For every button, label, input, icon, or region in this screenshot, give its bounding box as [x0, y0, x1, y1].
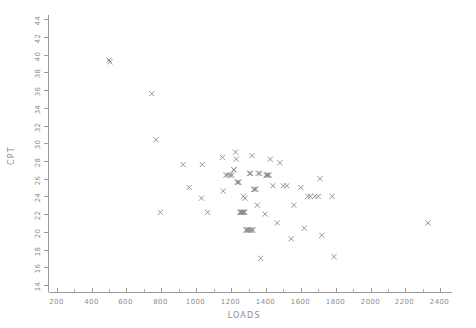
scatter-point [331, 254, 336, 259]
y-tick-label-14: 14 [34, 282, 42, 292]
scatter-point [242, 196, 247, 201]
scatter-plot-figure: 2004006008001000120014001600180020002200… [0, 0, 476, 328]
y-tick-label-20: 20 [34, 229, 42, 239]
x-tick-label-1400: 1400 [256, 298, 275, 306]
x-tick-label-2200: 2200 [395, 298, 414, 306]
y-tick-label-34: 34 [34, 105, 42, 115]
scatter-point [187, 185, 192, 190]
scatter-point [221, 188, 226, 193]
scatter-point [233, 150, 238, 155]
x-axis-title: LOADS [228, 311, 261, 320]
scatter-point [284, 183, 289, 188]
x-tick-label-800: 800 [153, 298, 168, 306]
scatter-point [158, 210, 163, 215]
scatter-point [205, 210, 210, 215]
scatter-point [319, 233, 324, 238]
y-tick-label-28: 28 [34, 158, 42, 168]
scatter-point [330, 194, 335, 199]
x-tick-label-2400: 2400 [430, 298, 449, 306]
x-tick-label-1600: 1600 [291, 298, 310, 306]
y-tick-label-30: 30 [34, 140, 42, 150]
y-tick-label-18: 18 [34, 247, 42, 257]
y-tick-label-16: 16 [34, 264, 42, 274]
scatter-point [232, 167, 237, 172]
scatter-point [199, 196, 204, 201]
scatter-point [426, 220, 431, 225]
y-tick-label-22: 22 [34, 211, 42, 221]
scatter-point [235, 180, 240, 185]
y-axis-title: CPT [7, 146, 16, 165]
x-tick-label-600: 600 [118, 298, 133, 306]
scatter-point [275, 220, 280, 225]
y-tick-label-42: 42 [34, 34, 42, 44]
scatter-point [258, 256, 263, 261]
scatter-point [181, 162, 186, 167]
scatter-point [317, 176, 322, 181]
y-tick-label-44: 44 [34, 16, 42, 26]
x-tick-label-1800: 1800 [326, 298, 345, 306]
y-tick-label-36: 36 [34, 87, 42, 97]
scatter-point [249, 153, 254, 158]
x-axis-tick-labels: 2004006008001000120014001600180020002200… [49, 298, 449, 306]
x-tick-label-2000: 2000 [361, 298, 380, 306]
scatter-point [106, 57, 111, 62]
scatter-point [255, 203, 260, 208]
scatter-point [220, 155, 225, 160]
x-tick-label-1200: 1200 [221, 298, 240, 306]
scatter-point [316, 194, 321, 199]
scatter-point [289, 236, 294, 241]
y-tick-label-26: 26 [34, 176, 42, 186]
scatter-markers [106, 57, 430, 261]
scatter-point [154, 137, 159, 142]
chart-canvas: 2004006008001000120014001600180020002200… [0, 0, 476, 328]
scatter-point [107, 59, 112, 64]
scatter-point [200, 162, 205, 167]
scatter-point [262, 211, 267, 216]
x-tick-label-200: 200 [49, 298, 64, 306]
x-axis-ticks [58, 288, 441, 292]
y-axis-tick-labels: 14161820222426283032343638404244 [34, 16, 42, 292]
x-tick-label-400: 400 [84, 298, 99, 306]
y-tick-label-38: 38 [34, 69, 42, 79]
scatter-point [149, 91, 154, 96]
scatter-point [270, 183, 275, 188]
scatter-point [298, 185, 303, 190]
x-tick-label-1000: 1000 [186, 298, 205, 306]
scatter-point [305, 194, 310, 199]
scatter-point [308, 194, 313, 199]
y-tick-label-40: 40 [34, 52, 42, 62]
scatter-point [302, 226, 307, 231]
scatter-point [277, 160, 282, 165]
scatter-point [291, 203, 296, 208]
y-tick-label-32: 32 [34, 123, 42, 133]
y-axis-ticks [44, 20, 48, 286]
scatter-point [234, 157, 239, 162]
y-tick-label-24: 24 [34, 193, 42, 203]
scatter-point [268, 157, 273, 162]
